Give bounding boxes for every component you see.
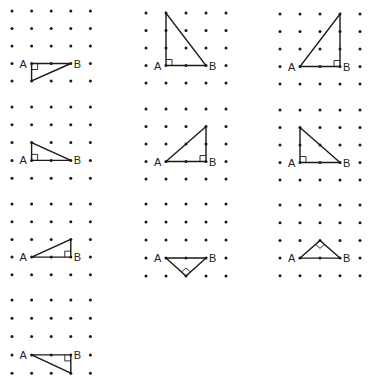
grid-dot bbox=[11, 203, 14, 206]
grid-dot bbox=[89, 45, 92, 48]
label-a: A bbox=[288, 61, 296, 73]
grid-dot bbox=[145, 239, 148, 242]
grid-dot bbox=[299, 109, 302, 112]
grid-dot bbox=[145, 64, 148, 67]
grid-dot bbox=[225, 221, 228, 224]
grid-dot bbox=[165, 108, 168, 111]
grid-dot bbox=[69, 220, 72, 223]
geoboard-panel: AB bbox=[145, 203, 228, 278]
grid-dot bbox=[145, 125, 148, 128]
grid-dot bbox=[11, 273, 14, 276]
grid-dot bbox=[359, 30, 362, 33]
geoboard-panel: AB bbox=[145, 12, 228, 85]
grid-dot bbox=[89, 123, 92, 126]
grid-dot bbox=[319, 13, 322, 16]
grid-dot bbox=[145, 29, 148, 32]
grid-dot bbox=[185, 82, 188, 85]
grid-dot bbox=[30, 123, 33, 126]
grid-dot bbox=[165, 143, 168, 146]
grid-dot bbox=[205, 239, 208, 242]
grid-dot bbox=[145, 82, 148, 85]
grid-dot bbox=[145, 108, 148, 111]
grid-dot bbox=[225, 47, 228, 50]
grid-dot bbox=[225, 275, 228, 278]
grid-dot bbox=[299, 274, 302, 277]
grid-dot bbox=[205, 221, 208, 224]
grid-dot bbox=[30, 238, 33, 241]
grid-dot bbox=[69, 203, 72, 206]
grid-dot bbox=[339, 204, 342, 207]
grid-dot bbox=[50, 203, 53, 206]
grid-dot bbox=[30, 27, 33, 30]
grid-dot bbox=[225, 160, 228, 163]
grid-dot bbox=[299, 239, 302, 242]
grid-dot bbox=[359, 239, 362, 242]
grid-dot bbox=[319, 179, 322, 182]
grid-dot bbox=[11, 62, 14, 65]
grid-dot bbox=[89, 317, 92, 320]
grid-dot bbox=[279, 161, 282, 164]
grid-dot bbox=[185, 108, 188, 111]
grid-dot bbox=[299, 13, 302, 16]
grid-dot bbox=[225, 12, 228, 15]
geoboard-panel: AB bbox=[279, 13, 362, 86]
geoboard-panel: AB bbox=[279, 204, 362, 278]
grid-dot bbox=[50, 299, 53, 302]
grid-dot bbox=[359, 274, 362, 277]
grid-dot bbox=[145, 203, 148, 206]
grid-dot bbox=[185, 125, 188, 128]
grid-dot bbox=[89, 203, 92, 206]
grid-dot bbox=[30, 203, 33, 206]
grid-dot bbox=[225, 125, 228, 128]
grid-dot bbox=[225, 203, 228, 206]
grid-dot bbox=[89, 220, 92, 223]
grid-dot bbox=[145, 275, 148, 278]
grid-dot bbox=[11, 335, 14, 338]
grid-dot bbox=[89, 238, 92, 241]
grid-dot bbox=[359, 65, 362, 68]
grid-dot bbox=[279, 13, 282, 16]
grid-dot bbox=[69, 27, 72, 30]
grid-dot bbox=[225, 29, 228, 32]
grid-dot bbox=[50, 141, 53, 144]
grid-dot bbox=[279, 257, 282, 260]
grid-dot bbox=[69, 299, 72, 302]
grid-dot bbox=[69, 273, 72, 276]
grid-dot bbox=[205, 108, 208, 111]
grid-dot bbox=[89, 62, 92, 65]
grid-dot bbox=[50, 106, 53, 109]
label-b: B bbox=[343, 157, 350, 169]
grid-dot bbox=[339, 274, 342, 277]
grid-dot bbox=[30, 10, 33, 13]
grid-dot bbox=[11, 141, 14, 144]
label-b: B bbox=[209, 60, 216, 72]
grid-dot bbox=[30, 177, 33, 180]
grid-dot bbox=[359, 221, 362, 224]
grid-dot bbox=[69, 317, 72, 320]
grid-dot bbox=[319, 274, 322, 277]
grid-dot bbox=[225, 64, 228, 67]
label-a: A bbox=[154, 60, 162, 72]
grid-dot bbox=[205, 178, 208, 181]
label-a: A bbox=[154, 252, 162, 264]
label-a: A bbox=[20, 349, 28, 361]
grid-dot bbox=[165, 275, 168, 278]
geoboard-panel: AB bbox=[11, 203, 92, 277]
grid-dot bbox=[359, 179, 362, 182]
grid-dot bbox=[279, 239, 282, 242]
grid-dot bbox=[319, 221, 322, 224]
grid-dot bbox=[299, 30, 302, 33]
grid-dot bbox=[11, 299, 14, 302]
geoboard-panel: AB bbox=[11, 299, 92, 375]
grid-dot bbox=[11, 372, 14, 375]
grid-dot bbox=[11, 238, 14, 241]
grid-dot bbox=[279, 48, 282, 51]
grid-dot bbox=[11, 80, 14, 83]
grid-dot bbox=[225, 257, 228, 260]
grid-dot bbox=[30, 45, 33, 48]
grid-dot bbox=[205, 47, 208, 50]
grid-dot bbox=[11, 106, 14, 109]
right-triangle bbox=[166, 258, 206, 276]
grid-dot bbox=[319, 83, 322, 86]
grid-dot bbox=[50, 220, 53, 223]
